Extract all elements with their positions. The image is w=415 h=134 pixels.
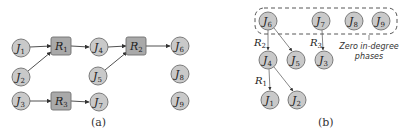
node-a-j9: J9 [171,92,189,110]
node-a-r1: R1 [51,37,71,55]
edge-j5-r2 [105,52,127,70]
edge-j4-j1 [269,69,270,90]
caption-b: (b) [318,116,334,129]
node-b-j3: J3 [315,51,333,69]
node-b-j7: J7 [312,12,330,30]
edge-j4-j2 [274,67,293,91]
node-b-j5: J5 [287,51,305,69]
node-a-j8: J8 [171,65,189,83]
edge-label-r2: R2 [253,37,266,50]
node-a-j1: J1 [12,39,30,57]
node-a-j2: J2 [12,68,30,86]
annotation-line1: Zero in-degree [338,42,399,51]
node-a-j5: J5 [89,67,107,85]
node-a-j4: J4 [90,38,108,56]
node-b-j1: J1 [261,91,279,109]
edge-j2-r1 [28,52,51,71]
dependency-figure: J1 J2 J3 J4 J5 J7 J6 J8 [0,0,415,134]
edge-r1-j4 [71,46,89,47]
node-a-j3: J3 [12,92,30,110]
annotation-line2: phases [354,52,383,61]
node-a-r2: R2 [126,37,146,55]
node-b-j6: J6 [259,12,277,30]
edge-r3-j7 [71,101,89,102]
edge-j4-r2 [108,46,126,47]
node-b-j2: J2 [288,91,306,109]
node-b-j4: J4 [259,51,277,69]
node-a-r3: R3 [51,92,71,110]
edge-label-r3: R3 [309,37,322,50]
edge-j1-r1 [30,46,51,47]
edge-j6-j5 [274,28,292,51]
edge-j7-j3 [322,30,323,50]
caption-a: (a) [91,116,106,129]
node-a-j7: J7 [90,93,108,111]
node-a-j6: J6 [171,37,189,55]
node-b-j9: J9 [372,12,390,30]
panel-a-jobs: J1 J2 J3 J4 J5 J7 J6 J8 [12,37,189,111]
edge-label-r1: R1 [254,75,267,88]
node-b-j8: J8 [345,12,363,30]
